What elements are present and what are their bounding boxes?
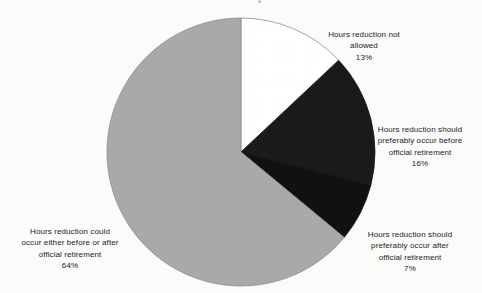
pie-label-after-retirement-value: 7% [348, 263, 472, 274]
pie-label-after-retirement: Hours reduction should preferably occur … [348, 218, 472, 285]
pie-label-not-allowed-value: 13% [305, 52, 423, 63]
pie-label-either-before-or-after: Hours reduction could occur either befor… [2, 215, 138, 282]
pie-label-either-before-or-after-value: 64% [2, 260, 138, 271]
scan-artifact-speck [258, 0, 261, 3]
pie-label-either-before-or-after-text: Hours reduction could occur either befor… [21, 227, 118, 258]
pie-label-before-retirement-value: 16% [360, 158, 480, 169]
pie-label-not-allowed: Hours reduction not allowed 13% [305, 18, 423, 74]
pie-label-after-retirement-text: Hours reduction should preferably occur … [368, 230, 452, 261]
pie-label-before-retirement-text: Hours reduction should preferably occur … [378, 125, 463, 156]
pie-label-before-retirement: Hours reduction should preferably occur … [360, 113, 480, 180]
pie-chart-figure: Hours reduction not allowed 13% Hours re… [0, 0, 482, 293]
pie-label-not-allowed-text: Hours reduction not allowed [328, 30, 400, 50]
